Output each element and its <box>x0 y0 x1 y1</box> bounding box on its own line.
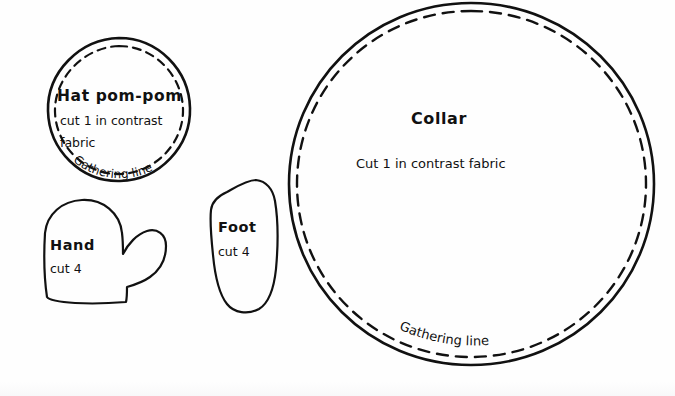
piece-hand: Hand cut 4 <box>44 200 166 303</box>
collar-gathering-line <box>297 11 646 357</box>
collar-instruction-line-1: Cut 1 in contrast fabric <box>356 156 506 171</box>
collar-gathering-label: Gathering line <box>398 318 490 348</box>
pattern-canvas: Hat pom-pom cut 1 in contrast fabric Gat… <box>0 0 675 396</box>
hat-pompom-cut-line <box>48 38 190 181</box>
hat-pompom-gathering-label: Gathering line <box>71 152 155 181</box>
hand-title: Hand <box>50 237 95 253</box>
piece-hat-pompom: Hat pom-pom cut 1 in contrast fabric Gat… <box>48 38 190 181</box>
pattern-sheet: Hat pom-pom cut 1 in contrast fabric Gat… <box>0 0 675 396</box>
collar-cut-line <box>289 3 654 365</box>
hat-pompom-gathering-line <box>55 46 183 174</box>
piece-foot: Foot cut 4 <box>211 180 278 312</box>
hand-instruction-line-1: cut 4 <box>50 261 82 276</box>
hat-pompom-instruction-line-2: fabric <box>60 135 96 150</box>
foot-instruction-line-1: cut 4 <box>218 244 250 259</box>
foot-title: Foot <box>218 219 257 235</box>
hat-pompom-instruction-line-1: cut 1 in contrast <box>60 113 163 128</box>
collar-title: Collar <box>411 109 467 128</box>
hat-pompom-title: Hat pom-pom <box>57 87 182 105</box>
piece-collar: Collar Cut 1 in contrast fabric Gatherin… <box>289 3 654 365</box>
